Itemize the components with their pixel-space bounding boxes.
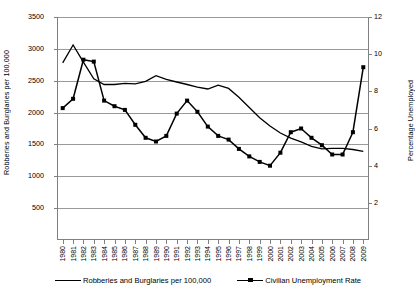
y-axis-left-tick-label: 2000: [0, 108, 44, 117]
x-axis-tick-label: 2006: [329, 246, 336, 262]
data-point-marker: [144, 136, 148, 140]
x-axis-tick-label: 1994: [204, 246, 211, 262]
legend-line-marker-icon: [237, 276, 263, 285]
data-point-marker: [133, 123, 137, 127]
x-axis-tick-mark: [343, 240, 344, 244]
y-axis-left-tick-label: 1000: [0, 171, 44, 180]
x-axis-tick-label: 2005: [318, 246, 325, 262]
x-axis-tick-mark: [270, 240, 271, 244]
x-axis-tick-mark: [83, 240, 84, 244]
x-axis-tick-label: 1985: [111, 246, 118, 262]
data-point-marker: [206, 125, 210, 129]
x-axis-tick-mark: [280, 240, 281, 244]
x-axis-tick-mark: [332, 240, 333, 244]
x-axis-tick-label: 2004: [308, 246, 315, 262]
x-axis-tick-label: 2002: [287, 246, 294, 262]
y-axis-left-tick-label: 1500: [0, 139, 44, 148]
data-point-marker: [175, 112, 179, 116]
x-axis-tick-mark: [135, 240, 136, 244]
series-line-2: [63, 60, 364, 166]
x-axis-tick-label: 1983: [90, 246, 97, 262]
x-axis-tick-mark: [104, 240, 105, 244]
y-axis-right-tick-mark: [369, 91, 372, 92]
data-point-marker: [81, 58, 85, 62]
data-point-marker: [299, 127, 303, 131]
x-axis-tick-mark: [177, 240, 178, 244]
data-point-marker: [237, 147, 241, 151]
x-axis-tick-label: 1981: [70, 246, 77, 262]
plot-area: [57, 17, 369, 240]
data-point-marker: [361, 65, 365, 69]
legend-label-unemployment: Civilian Unemployment Rate: [265, 276, 361, 285]
y-axis-left-tick-label: 3500: [0, 12, 44, 21]
x-axis-tick-mark: [208, 240, 209, 244]
y-axis-right-tick-label: 8: [374, 86, 398, 95]
chart-container: Robberies and Burglaries per 100,000 Per…: [0, 0, 416, 293]
y-axis-right-tick-mark: [369, 166, 372, 167]
x-axis-tick-label: 2003: [298, 246, 305, 262]
x-axis-tick-mark: [291, 240, 292, 244]
y-axis-left-tick-label: 2500: [0, 76, 44, 85]
x-axis-tick-label: 1989: [153, 246, 160, 262]
x-axis-tick-mark: [260, 240, 261, 244]
x-axis-tick-mark: [73, 240, 74, 244]
x-axis-tick-label: 1992: [184, 246, 191, 262]
x-axis-tick-label: 1980: [59, 246, 66, 262]
data-point-marker: [310, 136, 314, 140]
data-point-marker: [102, 99, 106, 103]
x-axis-tick-label: 2009: [360, 246, 367, 262]
data-point-marker: [123, 108, 127, 112]
x-axis-tick-mark: [353, 240, 354, 244]
data-point-marker: [227, 138, 231, 142]
data-point-marker: [268, 164, 272, 168]
x-axis-tick-mark: [156, 240, 157, 244]
data-point-marker: [92, 60, 96, 64]
legend-label-robberies: Robberies and Burglaries per 100,000: [83, 276, 211, 285]
data-point-marker: [113, 104, 117, 108]
y-axis-left-tick-label: 500: [0, 203, 44, 212]
x-axis-tick-mark: [166, 240, 167, 244]
x-axis-tick-mark: [94, 240, 95, 244]
x-axis-tick-mark: [322, 240, 323, 244]
data-point-marker: [185, 99, 189, 103]
y-axis-left-tick-label: 3000: [0, 44, 44, 53]
x-axis-tick-label: 1993: [194, 246, 201, 262]
x-axis-tick-label: 1987: [132, 246, 139, 262]
data-point-marker: [71, 97, 75, 101]
y-axis-right-tick-mark: [369, 203, 372, 204]
data-point-marker: [289, 130, 293, 134]
legend-item-robberies: Robberies and Burglaries per 100,000: [55, 276, 211, 285]
x-axis-tick-mark: [229, 240, 230, 244]
data-point-marker: [164, 134, 168, 138]
data-point-marker: [320, 143, 324, 147]
x-axis-tick-mark: [63, 240, 64, 244]
y-axis-title-right: Percentage Unemployed: [406, 40, 415, 200]
x-axis-tick-label: 1991: [173, 246, 180, 262]
legend-item-unemployment: Civilian Unemployment Rate: [237, 276, 361, 285]
data-point-marker: [195, 110, 199, 114]
series-lines: [57, 17, 369, 240]
x-axis-tick-mark: [312, 240, 313, 244]
data-point-marker: [351, 130, 355, 134]
x-axis-tick-label: 2008: [349, 246, 356, 262]
y-axis-right-tick-label: 10: [374, 49, 398, 58]
data-point-marker: [154, 140, 158, 144]
x-axis-tick-mark: [125, 240, 126, 244]
x-axis-tick-label: 1997: [235, 246, 242, 262]
x-axis-tick-mark: [187, 240, 188, 244]
x-axis-tick-mark: [249, 240, 250, 244]
x-axis-tick-label: 1984: [101, 246, 108, 262]
y-axis-right-tick-mark: [369, 129, 372, 130]
series-line-1: [63, 45, 364, 151]
x-axis-tick-mark: [218, 240, 219, 244]
x-axis-tick-mark: [363, 240, 364, 244]
data-point-marker: [61, 106, 65, 110]
x-axis-tick-label: 1986: [121, 246, 128, 262]
data-point-marker: [247, 154, 251, 158]
y-axis-right-tick-mark: [369, 54, 372, 55]
data-point-marker: [330, 153, 334, 157]
x-axis-tick-label: 1998: [246, 246, 253, 262]
chart-legend: Robberies and Burglaries per 100,000 Civ…: [0, 272, 416, 288]
x-axis-tick-label: 1988: [142, 246, 149, 262]
y-axis-right-tick-label: 2: [374, 198, 398, 207]
